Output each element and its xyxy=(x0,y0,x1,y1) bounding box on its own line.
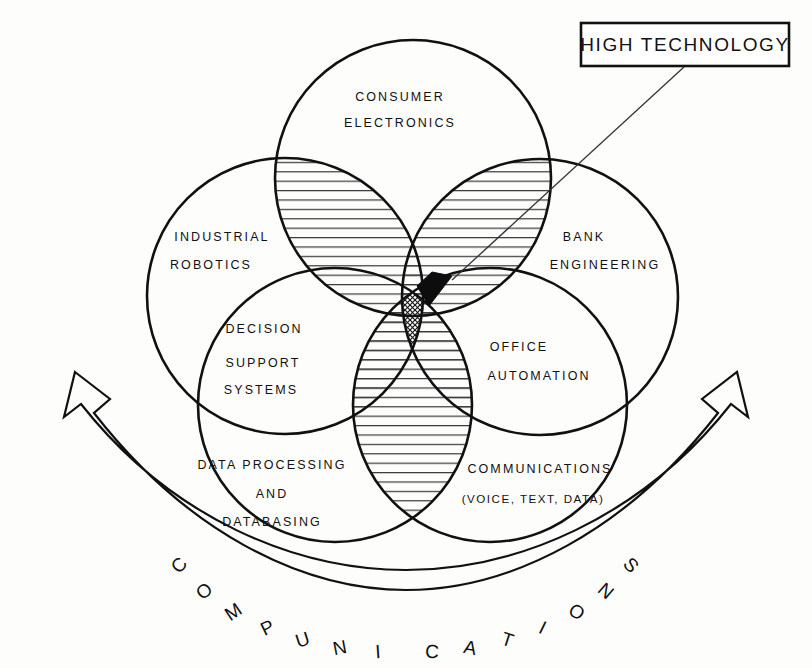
label-line: SYSTEMS xyxy=(224,383,298,397)
label-line: ENGINEERING xyxy=(550,258,661,272)
label-line: ELECTRONICS xyxy=(344,116,456,130)
label-line: AND xyxy=(256,487,289,501)
label-line: BANK xyxy=(563,230,605,244)
label-line: SUPPORT xyxy=(226,356,301,370)
label-line: COMMUNICATIONS xyxy=(467,462,612,476)
label-line: DATA PROCESSING xyxy=(197,458,346,472)
label-line: INDUSTRIAL xyxy=(174,230,269,244)
label-line: DECISION xyxy=(225,322,302,336)
high-technology-callout-label: HIGH TECHNOLOGY xyxy=(580,34,789,55)
label-line: AUTOMATION xyxy=(487,369,590,383)
label-line: ROBOTICS xyxy=(170,258,252,272)
label-line: OFFICE xyxy=(490,340,548,354)
label-line: CONSUMER xyxy=(355,90,445,104)
label-line: (VOICE, TEXT, DATA) xyxy=(462,492,605,505)
high-technology-venn-diagram: HIGH TECHNOLOGY CONSUMER ELECTRONICS IND… xyxy=(0,0,812,668)
diagram-canvas: HIGH TECHNOLOGY CONSUMER ELECTRONICS IND… xyxy=(0,0,812,668)
band-letter: C xyxy=(425,641,440,663)
label-line: DATABASING xyxy=(222,515,322,529)
label-decision-support-systems: DECISION SUPPORT SYSTEMS xyxy=(224,322,303,397)
